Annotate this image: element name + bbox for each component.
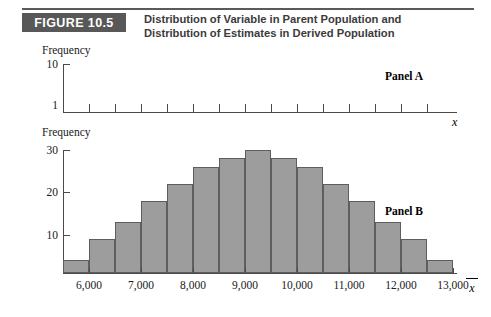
- panel-b-xtick: [297, 268, 298, 274]
- panel-b-xtick: [401, 268, 402, 274]
- panel-b-xtick-label: 8,000: [167, 279, 219, 291]
- histogram-bar: [297, 167, 323, 273]
- panel-b-x-axis-symbol-text: x: [469, 281, 474, 295]
- panel-b-xtick: [245, 268, 246, 274]
- histogram-bar: [323, 184, 349, 273]
- histogram-bar: [349, 201, 375, 273]
- panel-b-xtick-label: 11,000: [321, 279, 377, 291]
- histogram-bar: [401, 239, 427, 273]
- panel-b-xtick-label: 10,000: [269, 279, 325, 291]
- panel-b-ytick-10: 10: [32, 229, 58, 241]
- panel-b: Frequency 30 20 10: [0, 0, 491, 317]
- histogram-bar: [115, 222, 141, 273]
- panel-b-y-axis-line: [63, 150, 64, 273]
- histogram-bar: [219, 158, 245, 273]
- x-bar-overline: [466, 278, 478, 279]
- panel-b-xtick: [193, 268, 194, 274]
- panel-b-xtick: [141, 268, 142, 274]
- histogram-bar: [375, 222, 401, 273]
- panel-b-tag: Panel B: [385, 205, 423, 217]
- histogram-bar: [141, 201, 167, 273]
- panel-b-xtick-label: 12,000: [373, 279, 429, 291]
- panel-b-xtick: [349, 268, 350, 274]
- panel-b-xtick-label: 9,000: [219, 279, 271, 291]
- panel-b-xtick: [453, 268, 454, 274]
- panel-b-y-axis-label: Frequency: [42, 126, 91, 138]
- histogram-bar: [63, 260, 89, 273]
- panel-b-xtick-label: 6,000: [63, 279, 115, 291]
- histogram-bar: [167, 184, 193, 273]
- histogram-bar: [271, 158, 297, 273]
- panel-b-ytick-mark-30: [63, 150, 70, 151]
- figure-container: FIGURE 10.5 Distribution of Variable in …: [0, 0, 491, 317]
- panel-b-x-axis-symbol: x: [466, 278, 478, 296]
- panel-b-xtick-label: 7,000: [115, 279, 167, 291]
- histogram-bar: [427, 260, 453, 273]
- panel-b-x-axis-line: [63, 273, 457, 274]
- panel-b-ytick-mark-10: [63, 235, 70, 236]
- histogram-bar: [89, 239, 115, 273]
- panel-b-ytick-20: 20: [32, 186, 58, 198]
- panel-b-ytick-30: 30: [32, 144, 58, 156]
- histogram-bar: [193, 167, 219, 273]
- histogram-bar: [245, 150, 271, 273]
- panel-b-ytick-mark-20: [63, 192, 70, 193]
- panel-b-xtick: [89, 268, 90, 274]
